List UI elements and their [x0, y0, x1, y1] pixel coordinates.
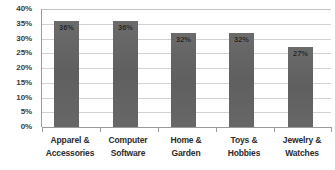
plot-area: 36% 36% 32% 32% 27% [41, 9, 331, 127]
x-axis-category-labels: Apparel & Accessories Computer Software … [41, 134, 331, 168]
y-tick-label: 10% [2, 94, 32, 102]
y-tick-label: 30% [2, 35, 32, 43]
category-label-line2: Accessories [41, 147, 99, 160]
y-tick-label: 5% [2, 108, 32, 116]
bar-value-label: 32% [171, 36, 196, 44]
category-label-apparel-accessories: Apparel & Accessories [41, 134, 99, 159]
x-tick-mark [158, 127, 159, 132]
category-label-line2: Garden [157, 147, 215, 160]
y-tick-label: 40% [2, 5, 32, 13]
category-label-computer-software: Computer Software [99, 134, 157, 159]
category-label-line2: Hobbies [215, 147, 273, 160]
category-label-line1: Jewelry & [273, 134, 331, 147]
y-tick-label: 25% [2, 49, 32, 57]
x-tick-mark [100, 127, 101, 132]
category-label-line2: Watches [273, 147, 331, 160]
y-tick-label: 0% [2, 123, 32, 131]
bar-value-label: 27% [288, 50, 313, 58]
bar-home-garden: 32% [171, 33, 196, 127]
x-tick-mark [216, 127, 217, 132]
category-label-line1: Home & [157, 134, 215, 147]
category-label-line1: Toys & [215, 134, 273, 147]
y-tick-label: 35% [2, 20, 32, 28]
x-tick-mark [274, 127, 275, 132]
x-axis-line [42, 127, 331, 128]
bar-computer-software: 36% [113, 21, 138, 127]
bar-apparel-accessories: 36% [54, 21, 79, 127]
category-label-line2: Software [99, 147, 157, 160]
bar-jewelry-watches: 27% [288, 47, 313, 127]
bar-series: 36% 36% 32% 32% 27% [42, 9, 331, 127]
bar-toys-hobbies: 32% [229, 33, 254, 127]
category-label-line1: Computer [99, 134, 157, 147]
y-tick-label: 20% [2, 64, 32, 72]
x-tick-mark [42, 127, 43, 132]
category-label-jewelry-watches: Jewelry & Watches [273, 134, 331, 159]
category-label-home-garden: Home & Garden [157, 134, 215, 159]
category-label-line1: Apparel & [41, 134, 99, 147]
bar-value-label: 36% [113, 24, 138, 32]
bar-value-label: 32% [229, 36, 254, 44]
x-tick-mark [331, 127, 332, 132]
y-tick-label: 15% [2, 79, 32, 87]
bar-chart: 40% 35% 30% 25% 20% 15% 10% 5% 0% 36% 36… [0, 0, 335, 170]
bar-value-label: 36% [54, 24, 79, 32]
category-label-toys-hobbies: Toys & Hobbies [215, 134, 273, 159]
